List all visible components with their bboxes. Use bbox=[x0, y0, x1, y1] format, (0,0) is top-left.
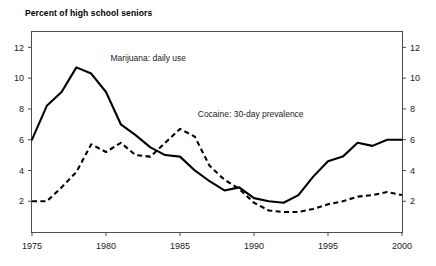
series-annotations: Marijuana: daily useCocaine: 30-day prev… bbox=[110, 53, 303, 118]
series-line-0 bbox=[32, 67, 402, 202]
line-chart-plot: 24681012 24681012 1975198019851990199520… bbox=[0, 0, 436, 266]
x-tick-label: 1975 bbox=[22, 241, 42, 251]
x-tick-label: 1985 bbox=[170, 241, 190, 251]
y-tick-label-left: 12 bbox=[14, 43, 24, 53]
y-tick-label-right: 4 bbox=[410, 166, 415, 176]
x-axis-labels: 197519801985199019952000 bbox=[22, 241, 412, 251]
y-tick-label-right: 2 bbox=[410, 196, 415, 206]
y-tick-label-right: 8 bbox=[410, 104, 415, 114]
series-line-1 bbox=[32, 129, 402, 212]
chart-figure: Percent of high school seniors 24681012 … bbox=[0, 0, 436, 266]
x-tick-label: 1990 bbox=[244, 241, 264, 251]
y-axis-left-labels: 24681012 bbox=[14, 43, 24, 207]
y-tick-label-right: 6 bbox=[410, 135, 415, 145]
x-tick-label: 1995 bbox=[318, 241, 338, 251]
series-label-0: Marijuana: daily use bbox=[110, 53, 186, 63]
y-tick-label-right: 12 bbox=[410, 43, 420, 53]
series-label-1: Cocaine: 30-day prevalence bbox=[198, 109, 304, 119]
y-tick-label-left: 10 bbox=[14, 73, 24, 83]
data-series-group bbox=[32, 67, 402, 212]
y-axis-right-labels: 24681012 bbox=[410, 43, 420, 207]
y-tick-label-right: 10 bbox=[410, 73, 420, 83]
y-tick-label-left: 8 bbox=[19, 104, 24, 114]
x-tick-label: 1980 bbox=[96, 241, 116, 251]
y-tick-label-left: 4 bbox=[19, 166, 24, 176]
plot-frame bbox=[32, 32, 403, 233]
x-tick-label: 2000 bbox=[392, 241, 412, 251]
y-tick-label-left: 2 bbox=[19, 196, 24, 206]
plot-frame-group bbox=[32, 32, 403, 233]
y-tick-label-left: 6 bbox=[19, 135, 24, 145]
